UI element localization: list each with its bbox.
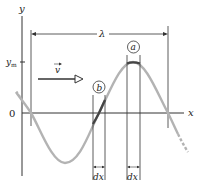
dx-marker-b (93, 166, 105, 168)
wavelength-arrowhead-right (163, 32, 168, 36)
y-axis-label: y (18, 3, 25, 14)
velocity-arrow (38, 75, 83, 83)
wave-diagram: y x 0 ym λ v b a dx (0, 0, 202, 190)
point-a-label: a (131, 42, 136, 52)
dx-label-b: dx (93, 172, 104, 182)
velocity-label: v (55, 65, 60, 75)
wavelength-arrowhead-left (31, 32, 36, 36)
wavelength-label: λ (98, 28, 105, 39)
amplitude-label: ym (5, 57, 17, 68)
x-axis-label: x (188, 107, 194, 118)
element-a-highlight (127, 62, 140, 63)
dx-marker-a (127, 166, 140, 168)
point-b-label: b (97, 83, 103, 93)
dx-label-a: dx (127, 172, 138, 182)
element-b-highlight (93, 100, 105, 124)
wave-continuation-left (16, 91, 22, 100)
origin-label: 0 (9, 108, 15, 119)
wave-continuation-right (178, 134, 188, 152)
